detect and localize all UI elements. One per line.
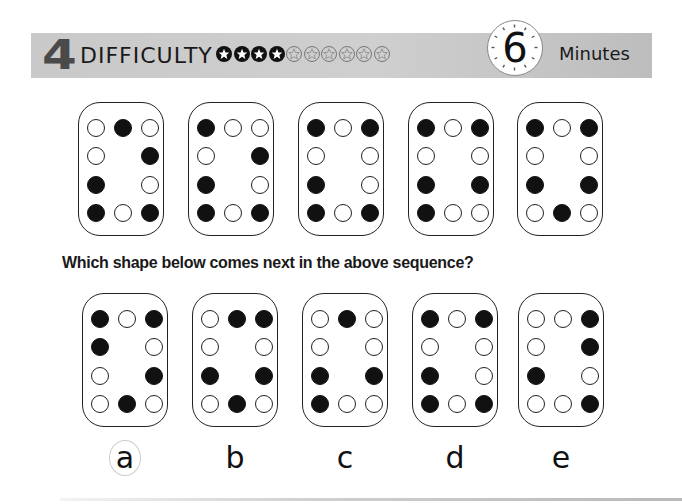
option-label-b[interactable]: b xyxy=(215,440,255,476)
star-empty-icon xyxy=(374,46,390,62)
filled-circle-icon xyxy=(91,338,109,356)
empty-circle-icon xyxy=(527,395,545,413)
filled-circle-icon xyxy=(251,147,269,165)
option-shape-e[interactable] xyxy=(518,293,604,427)
time-value: 6 xyxy=(488,21,542,75)
filled-circle-icon xyxy=(255,310,273,328)
difficulty-label: DIFFICULTY xyxy=(80,42,213,70)
empty-circle-icon xyxy=(224,204,242,222)
level-number: 4 xyxy=(42,30,77,80)
empty-circle-icon xyxy=(114,204,132,222)
empty-circle-icon xyxy=(201,338,219,356)
option-shape-d[interactable] xyxy=(412,293,498,427)
empty-circle-icon xyxy=(307,147,325,165)
filled-circle-icon xyxy=(581,338,599,356)
empty-circle-icon xyxy=(201,395,219,413)
empty-circle-icon xyxy=(91,395,109,413)
empty-circle-icon xyxy=(201,310,219,328)
empty-circle-icon xyxy=(365,310,383,328)
filled-circle-icon xyxy=(361,119,379,137)
empty-circle-icon xyxy=(338,395,356,413)
filled-circle-icon xyxy=(197,119,215,137)
option-shape-a[interactable] xyxy=(82,293,168,427)
filled-circle-icon xyxy=(417,204,435,222)
filled-circle-icon xyxy=(87,176,105,194)
filled-circle-icon xyxy=(91,310,109,328)
filled-circle-icon xyxy=(311,367,329,385)
empty-circle-icon xyxy=(554,310,572,328)
option-shape-c[interactable] xyxy=(302,293,388,427)
option-label-d[interactable]: d xyxy=(435,440,475,476)
option-label-a[interactable]: a xyxy=(105,440,145,476)
empty-circle-icon xyxy=(91,367,109,385)
filled-circle-icon xyxy=(526,176,544,194)
star-empty-icon xyxy=(321,46,337,62)
empty-circle-icon xyxy=(311,338,329,356)
filled-circle-icon xyxy=(471,119,489,137)
empty-circle-icon xyxy=(197,147,215,165)
filled-circle-icon xyxy=(421,310,439,328)
filled-circle-icon xyxy=(228,310,246,328)
filled-circle-icon xyxy=(417,176,435,194)
empty-circle-icon xyxy=(255,338,273,356)
empty-circle-icon xyxy=(311,310,329,328)
empty-circle-icon xyxy=(581,367,599,385)
option-label-e[interactable]: e xyxy=(541,440,581,476)
filled-circle-icon xyxy=(526,119,544,137)
filled-circle-icon xyxy=(527,367,545,385)
filled-circle-icon xyxy=(365,367,383,385)
filled-circle-icon xyxy=(581,395,599,413)
filled-circle-icon xyxy=(580,176,598,194)
empty-circle-icon xyxy=(145,338,163,356)
empty-circle-icon xyxy=(118,310,136,328)
filled-circle-icon xyxy=(145,367,163,385)
filled-circle-icon xyxy=(141,204,159,222)
filled-circle-icon xyxy=(475,395,493,413)
filled-circle-icon xyxy=(361,204,379,222)
filled-circle-icon xyxy=(311,395,329,413)
empty-circle-icon xyxy=(475,367,493,385)
empty-circle-icon xyxy=(526,147,544,165)
star-filled-icon xyxy=(234,46,250,62)
question-text: Which shape below comes next in the abov… xyxy=(62,252,473,274)
filled-circle-icon xyxy=(553,204,571,222)
time-unit: Minutes xyxy=(559,43,630,65)
bottom-divider xyxy=(60,498,682,501)
sequence-shape-5 xyxy=(517,102,603,236)
option-label-c[interactable]: c xyxy=(325,440,365,476)
filled-circle-icon xyxy=(255,367,273,385)
sequence-shape-3 xyxy=(298,102,384,236)
empty-circle-icon xyxy=(365,395,383,413)
empty-circle-icon xyxy=(448,310,466,328)
star-filled-icon xyxy=(216,46,232,62)
star-empty-icon xyxy=(286,46,302,62)
star-filled-icon xyxy=(269,46,285,62)
sequence-shape-4 xyxy=(408,102,494,236)
empty-circle-icon xyxy=(141,119,159,137)
empty-circle-icon xyxy=(224,119,242,137)
filled-circle-icon xyxy=(251,204,269,222)
filled-circle-icon xyxy=(87,204,105,222)
filled-circle-icon xyxy=(580,119,598,137)
star-empty-icon xyxy=(339,46,355,62)
empty-circle-icon xyxy=(527,310,545,328)
empty-circle-icon xyxy=(334,204,352,222)
star-filled-icon xyxy=(251,46,267,62)
difficulty-stars xyxy=(216,46,390,62)
empty-circle-icon xyxy=(145,395,163,413)
sequence-shape-2 xyxy=(188,102,274,236)
filled-circle-icon xyxy=(228,395,246,413)
empty-circle-icon xyxy=(448,395,466,413)
empty-circle-icon xyxy=(87,119,105,137)
filled-circle-icon xyxy=(307,204,325,222)
filled-circle-icon xyxy=(118,395,136,413)
option-shape-b[interactable] xyxy=(192,293,278,427)
empty-circle-icon xyxy=(444,204,462,222)
empty-circle-icon xyxy=(471,204,489,222)
filled-circle-icon xyxy=(145,310,163,328)
empty-circle-icon xyxy=(365,338,383,356)
empty-circle-icon xyxy=(255,395,273,413)
empty-circle-icon xyxy=(251,119,269,137)
empty-circle-icon xyxy=(141,176,159,194)
filled-circle-icon xyxy=(197,204,215,222)
